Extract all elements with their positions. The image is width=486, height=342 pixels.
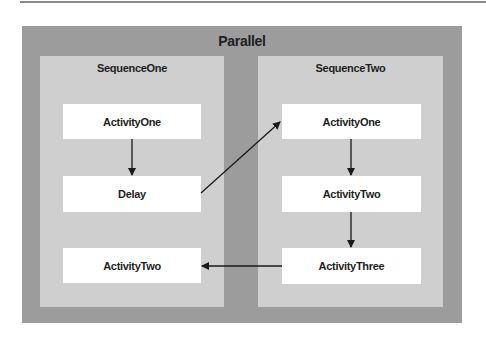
seq2-activity-three: ActivityThree [282,248,421,284]
seq1-delay: Delay [63,176,201,212]
seq2-activity-two: ActivityTwo [282,176,421,212]
sequence-one-label: SequenceOne [40,62,224,74]
seq2-activity-one: ActivityOne [282,104,421,139]
top-rule [20,1,486,3]
seq1-activity-two: ActivityTwo [63,248,201,283]
sequence-two-label: SequenceTwo [258,62,443,74]
parallel-label: Parallel [22,33,462,49]
seq1-activity-one: ActivityOne [63,104,201,139]
